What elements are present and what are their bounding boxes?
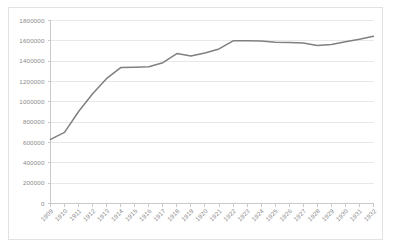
x-tick-label: 1930 <box>334 207 349 222</box>
series-line <box>51 36 374 139</box>
y-tick-label: 1800000 <box>19 17 45 24</box>
x-tick-label: 1928 <box>306 207 321 222</box>
x-tick-label: 1915 <box>124 207 139 222</box>
x-tick-label: 1932 <box>362 207 377 222</box>
y-tick-label: 1400000 <box>19 57 45 64</box>
y-tick-label: 1200000 <box>19 78 45 85</box>
y-tick-label: 1000000 <box>19 98 45 105</box>
x-axis: 1909191019111912191319141915191619171918… <box>39 204 377 223</box>
y-tick-label: 1600000 <box>19 37 45 44</box>
x-tick-label: 1921 <box>208 207 223 222</box>
y-tick-label: 600000 <box>23 139 45 146</box>
y-tick-label: 0 <box>41 200 45 207</box>
x-tick-label: 1916 <box>138 207 153 222</box>
x-tick-label: 1925 <box>264 207 279 222</box>
x-tick-label: 1926 <box>278 207 293 222</box>
x-tick-label: 1911 <box>68 207 83 222</box>
x-tick-label: 1927 <box>292 207 307 222</box>
x-tick-label: 1910 <box>53 207 68 222</box>
y-axis: 0200000400000600000800000100000012000001… <box>19 17 50 207</box>
x-tick-label: 1917 <box>152 207 167 222</box>
x-tick-label: 1918 <box>166 207 181 222</box>
x-tick-label: 1920 <box>194 207 209 222</box>
x-tick-label: 1914 <box>110 207 125 222</box>
x-tick-label: 1919 <box>180 207 195 222</box>
x-tick-label: 1931 <box>348 207 363 222</box>
x-tick-label: 1929 <box>320 207 335 222</box>
data-series <box>51 36 374 139</box>
line-chart: 0200000400000600000800000100000012000001… <box>0 0 394 251</box>
x-tick-label: 1913 <box>95 207 110 222</box>
y-tick-label: 200000 <box>23 179 45 186</box>
x-tick-label: 1922 <box>222 207 237 222</box>
x-tick-label: 1909 <box>39 207 54 222</box>
x-tick-label: 1924 <box>250 207 265 222</box>
x-tick-label: 1923 <box>236 207 251 222</box>
y-tick-label: 800000 <box>23 118 45 125</box>
y-tick-label: 400000 <box>23 159 45 166</box>
x-tick-label: 1912 <box>81 207 96 222</box>
